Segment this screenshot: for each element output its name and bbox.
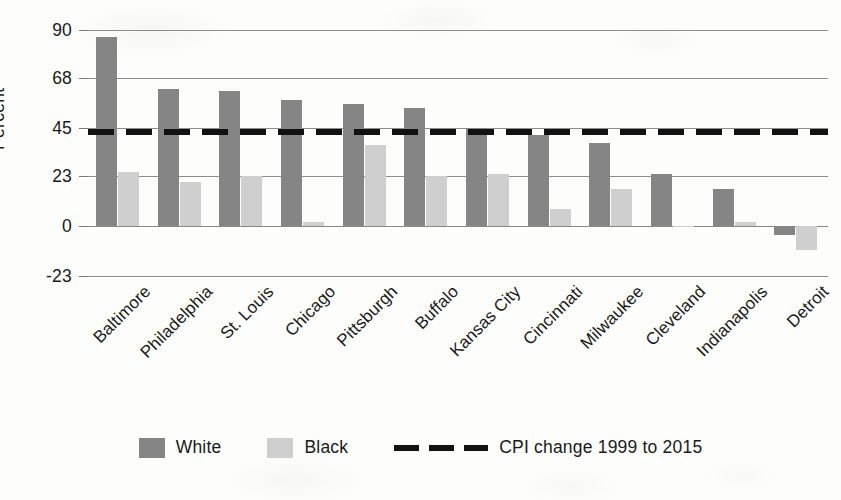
bar-white-cincinnati — [528, 135, 549, 226]
x-label-buffalo: Buffalo — [411, 282, 463, 334]
x-label-st-louis: St. Louis — [217, 282, 279, 344]
bar-group — [273, 30, 335, 276]
bar-white-pittsburgh — [343, 104, 364, 226]
y-tick-mark-68 — [79, 78, 88, 79]
x-label-pittsburgh: Pittsburgh — [333, 282, 402, 351]
bar-black-buffalo — [426, 176, 447, 226]
x-axis-category-labels: BaltimorePhiladelphiaSt. LouisChicagoPit… — [88, 276, 828, 396]
x-label-detroit: Detroit — [783, 282, 833, 332]
bar-white-kansas-city — [466, 128, 487, 226]
x-label-milwaukee: Milwaukee — [577, 282, 649, 354]
legend-item-cpi: CPI change 1999 to 2015 — [394, 437, 702, 458]
bar-group — [766, 30, 828, 276]
bar-group — [335, 30, 397, 276]
y-axis-tick-marks — [79, 30, 88, 276]
y-tick-mark-23 — [79, 176, 88, 177]
bar-white-philadelphia — [158, 89, 179, 226]
y-tick-label-0: 0 — [62, 215, 72, 236]
y-tick-label-23: 23 — [52, 165, 72, 186]
bar-chart-figure: Percent 906845230-23 BaltimorePhiladelph… — [0, 0, 841, 500]
y-tick-mark-90 — [79, 30, 88, 31]
legend-label-cpi: CPI change 1999 to 2015 — [499, 437, 702, 458]
dashed-line-swatch-icon — [394, 445, 488, 451]
bar-black-st-louis — [241, 176, 262, 226]
y-tick-mark--23 — [79, 276, 88, 277]
bar-white-indianapolis — [713, 189, 734, 226]
chart-legend: White Black CPI change 1999 to 2015 — [0, 437, 841, 458]
legend-item-white: White — [139, 437, 222, 458]
y-tick-label-68: 68 — [52, 67, 72, 88]
bar-black-kansas-city — [488, 174, 509, 226]
bar-group — [211, 30, 273, 276]
y-tick-mark-45 — [79, 128, 88, 129]
bar-black-chicago — [303, 222, 324, 226]
bar-group — [396, 30, 458, 276]
bar-black-milwaukee — [611, 189, 632, 226]
y-tick-mark-0 — [79, 226, 88, 227]
bar-group — [520, 30, 582, 276]
bar-group — [705, 30, 767, 276]
x-label-baltimore: Baltimore — [89, 282, 155, 348]
bar-group — [150, 30, 212, 276]
bar-white-detroit — [774, 226, 795, 235]
bar-white-st-louis — [219, 91, 240, 226]
bar-black-indianapolis — [735, 222, 756, 226]
legend-label-white: White — [176, 437, 222, 458]
bar-black-baltimore — [118, 172, 139, 226]
x-label-chicago: Chicago — [281, 282, 340, 341]
bar-black-cincinnati — [550, 209, 571, 226]
bar-black-detroit — [796, 226, 817, 250]
legend-label-black: Black — [304, 437, 348, 458]
bar-black-pittsburgh — [365, 145, 386, 226]
bar-black-cleveland — [673, 226, 694, 228]
cpi-reference-line — [88, 129, 828, 135]
bar-group — [581, 30, 643, 276]
white-swatch-icon — [139, 438, 165, 458]
black-swatch-icon — [267, 438, 293, 458]
bar-white-cleveland — [651, 174, 672, 226]
y-tick-label-45: 45 — [52, 118, 72, 139]
y-tick-label--23: -23 — [46, 266, 72, 287]
bar-group — [643, 30, 705, 276]
legend-item-black: Black — [267, 437, 348, 458]
bar-white-milwaukee — [589, 143, 610, 226]
bar-group — [88, 30, 150, 276]
bar-group — [458, 30, 520, 276]
plot-area — [88, 30, 828, 276]
bar-black-philadelphia — [180, 182, 201, 226]
bar-white-chicago — [281, 100, 302, 226]
bar-white-buffalo — [404, 108, 425, 226]
y-tick-label-90: 90 — [52, 20, 72, 41]
y-axis-tick-labels: 906845230-23 — [0, 30, 80, 276]
